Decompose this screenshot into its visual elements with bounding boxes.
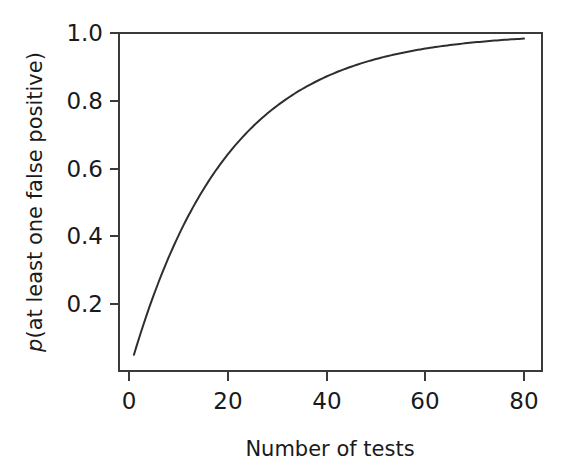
- y-axis-title: p(at least one false positive): [23, 52, 47, 353]
- y-tick-label-0.2: 0.2: [66, 291, 103, 317]
- x-tick-label-20: 20: [213, 388, 242, 414]
- chart-figure: 1.0 0.8 0.6 0.4 0.2 0 20 40 60 80 Number…: [0, 0, 569, 474]
- y-tick-label-0.6: 0.6: [66, 156, 103, 182]
- x-tick-label-80: 80: [509, 388, 538, 414]
- y-tick-label-0.4: 0.4: [66, 223, 103, 249]
- x-tick-label-40: 40: [312, 388, 341, 414]
- y-tick-label-1.0: 1.0: [66, 20, 103, 46]
- x-tick-label-0: 0: [122, 388, 137, 414]
- plot-canvas: 1.0 0.8 0.6 0.4 0.2 0 20 40 60 80 Number…: [0, 0, 569, 474]
- x-axis-title: Number of tests: [245, 437, 414, 461]
- y-tick-label-0.8: 0.8: [66, 88, 103, 114]
- y-axis-title-rest: (at least one false positive): [23, 52, 47, 338]
- x-tick-label-60: 60: [410, 388, 439, 414]
- y-axis-title-italic-p: p: [23, 339, 47, 353]
